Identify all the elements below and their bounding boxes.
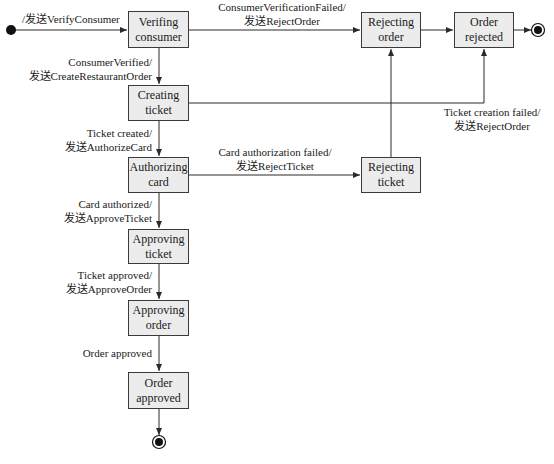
transition-label-start: /发送VerifyConsumer [22, 12, 120, 26]
state-label: card [148, 175, 169, 190]
state-diagram: Verifing consumer Creating ticket Author… [0, 0, 554, 464]
state-label: ticket [145, 103, 172, 118]
state-rejecting-ticket: Rejecting ticket [361, 157, 421, 193]
initial-state-icon [6, 25, 16, 35]
state-label: ticket [145, 247, 172, 262]
state-label: rejected [465, 30, 503, 45]
transition-label-card-authorized: Card authorized/ 发送ApproveTicket [40, 197, 152, 225]
state-label: ticket [378, 175, 405, 190]
transition-label-consumer-verified: ConsumerVerified/ 发送CreateRestaurantOrde… [10, 55, 152, 83]
transition-label-consumer-verification-failed: ConsumerVerificationFailed/ 发送RejectOrde… [212, 0, 352, 28]
state-authorizing-card: Authorizing card [128, 157, 189, 193]
state-label: Rejecting [368, 15, 414, 30]
state-verifying-consumer: Verifing consumer [128, 11, 189, 48]
state-label: Order [145, 376, 173, 391]
state-label: Approving [133, 232, 185, 247]
state-label: Verifing [139, 15, 178, 30]
state-label: consumer [135, 30, 182, 45]
state-label: Rejecting [368, 160, 414, 175]
transition-label-ticket-created: Ticket created/ 发送AuthorizeCard [40, 126, 152, 154]
state-label: Order [470, 15, 498, 30]
transition-label-ticket-creation-failed: Ticket creation failed/ 发送RejectOrder [430, 105, 554, 133]
state-approving-order: Approving order [128, 300, 189, 336]
state-order-rejected: Order rejected [454, 12, 514, 48]
state-label: Authorizing [130, 160, 188, 175]
state-approving-ticket: Approving ticket [128, 229, 189, 264]
state-label: Approving [133, 303, 185, 318]
state-label: Creating [138, 88, 179, 103]
state-label: order [146, 318, 171, 333]
state-creating-ticket: Creating ticket [128, 85, 189, 121]
state-order-approved: Order approved [128, 372, 189, 409]
state-label: order [378, 30, 403, 45]
transition-label-ticket-approved: Ticket approved/ 发送ApproveOrder [40, 268, 152, 296]
final-state-icon-rejected [532, 24, 545, 37]
transition-label-card-authorization-failed: Card authorization failed/ 发送RejectTicke… [200, 145, 350, 173]
state-label: approved [136, 391, 181, 406]
transition-label-order-approved: Order approved [40, 346, 152, 360]
final-state-icon-approved [153, 436, 166, 449]
state-rejecting-order: Rejecting order [361, 12, 421, 48]
